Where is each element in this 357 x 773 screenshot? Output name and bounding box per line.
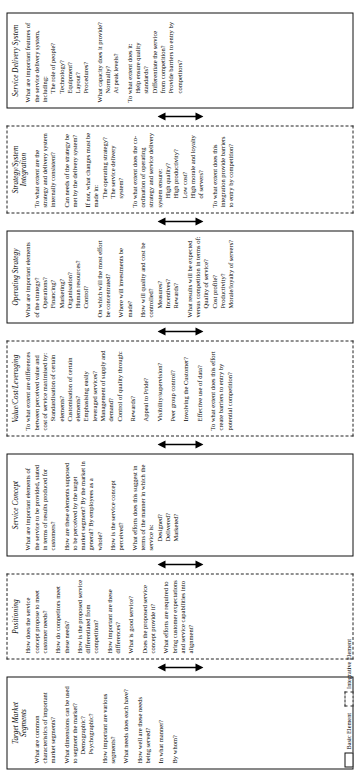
box-body-service-concept: What are important elements of the servi… [23,459,348,550]
question-text: How well are these needs being served? [135,682,152,763]
question-text: If not, what changes must be made in: [83,131,100,207]
box-operating-strategy: Operating Strategy What are important el… [6,230,353,323]
question-subitem: Rewards? [171,236,179,317]
connector-target-positioning [6,659,353,676]
question-subitem: High quality? [163,131,171,207]
question-subitem: Marketing? [57,236,65,317]
question-item: Visibility/supervision? [155,346,163,430]
connector-opstrat-integration [6,213,353,230]
box-service-delivery-system: Service Delivery System What are importa… [6,12,353,108]
question-subitem: High morale and loyalty of servers? [188,131,205,207]
box-title-operating-strategy: Operating Strategy [11,236,19,317]
question-subitem: At peak levels? [111,18,119,102]
question-subitem: Low cost? [180,131,188,207]
question-subitem: Control of quality through: [115,346,123,430]
question-item: Involving the Customer? [181,346,189,430]
question-item: What is good service? [126,579,134,653]
box-target-market-segments: Target Market Segments What are common c… [6,676,353,769]
question-text: What are important features of the servi… [23,18,48,102]
double-arrow-icon [157,326,203,338]
box-value-cost-leveraging: Value/Cost/Leveraging To what extent are… [6,340,353,436]
question-subitem: Control? [81,236,89,317]
question-text: What are common characteristics of impor… [32,682,57,763]
question-text: How important are various segments? [100,682,117,763]
double-arrow-icon [157,111,203,123]
question-text: How will quality and cost be controlled? [138,236,155,317]
strategic-service-vision-diagram: Target Market Segments What are common c… [0,0,357,773]
question-subitem: Quality of service? [201,236,209,317]
question-text: How important are these differences? [105,579,122,653]
question-item: What capacity does it provide?Normally?A… [95,18,120,102]
question-item: How is the service concept perceived? [108,459,125,550]
question-text: What are important elements of the strat… [23,236,40,317]
box-positioning: Positioning How does the service concept… [6,573,353,659]
question-text: How is the proposed service differentiat… [75,579,100,653]
double-arrow-icon [157,439,203,451]
question-text: By whom? [170,682,178,763]
connector-positioning-concept [6,556,353,573]
rotated-diagram-stage: Target Market Segments What are common c… [0,0,357,773]
connector-integration-delivery [6,108,353,125]
question-text: To what extent are the strategy and deli… [32,131,57,207]
legend-swatch-integrative [344,691,353,706]
question-subitem: Differentiate the service from competiti… [150,18,167,102]
double-arrow-icon [157,559,203,571]
question-subitem: Morale/loyalty of servers? [226,236,234,317]
question-text: To what extent does the co-ordination of… [130,131,163,207]
question-text: Visibility/supervision? [155,346,163,430]
question-item: On which will the most effort be concent… [95,236,112,317]
question-item: How does the service concept propose to … [23,579,48,653]
question-item: Where will investments be made? [116,236,133,317]
question-item: What are common characteristics of impor… [32,682,57,763]
question-item: How will quality and cost be controlled?… [138,236,180,317]
question-subitem: The service delivery system? [108,131,125,207]
question-item: How do competitors meet these needs? [53,579,70,653]
question-item: To what extent does it:Help ensure quali… [125,18,183,102]
question-subitem: Financing? [48,236,56,317]
box-service-concept: Service Concept What are important eleme… [6,453,353,556]
question-subitem: Provide barriers to entry by competitors… [166,18,183,102]
question-subitem: Measures? [155,236,163,317]
question-item: What are important elements of the strat… [23,236,90,317]
question-item: To what extent are differences between p… [23,346,123,430]
question-subitem: Procedures? [81,18,89,102]
question-subitem: Demographic? [78,682,86,763]
question-item: How are these elements supposed to be pe… [62,459,104,550]
question-subitem: Equipment? [65,18,73,102]
legend-swatch-basic [344,752,353,767]
box-body-target-market-segments: What are common characteristics of impor… [32,682,348,763]
question-text: Involving the Customer? [181,346,189,430]
question-text: Appeal to Pride? [141,346,149,430]
question-text: What needs does each have? [121,682,129,763]
question-subitem: Productivity? [218,236,226,317]
legend: Basic Element Integrative Element [344,639,353,767]
question-text: How is the service concept perceived? [108,459,125,550]
question-item: To what extent does this integration pro… [210,131,235,207]
question-subitem: Human resources? [73,236,81,317]
question-item: Appeal to Pride? [141,346,149,430]
question-item: By whom? [170,682,178,763]
question-text: What capacity does it provide? [95,18,103,102]
question-item: Rewards? [128,346,136,430]
question-item: If not, what changes must be made in:The… [83,131,125,207]
box-strategy-system-integration: Strategy/System Integration To what exte… [6,125,353,213]
question-subitem: Designed? [155,459,163,550]
question-subitem: Marketed? [171,459,179,550]
box-title-service-delivery-system: Service Delivery System [11,18,19,102]
box-title-target-market-segments: Target Market Segments [11,682,28,763]
box-body-strategy-system-integration: To what extent are the strategy and deli… [32,131,348,207]
box-body-service-delivery-system: What are important features of the servi… [23,18,348,102]
question-item: Effective use of data? [195,346,203,430]
question-item: Can needs of the strategy be met by the … [62,131,79,207]
question-text: How does the service concept propose to … [23,579,48,653]
question-text: To what extent does it: [125,18,133,102]
box-body-operating-strategy: What are important elements of the strat… [23,236,348,317]
question-subitem: Management of supply and demand? [98,346,115,430]
legend-label-integrative: Integrative Element [345,639,351,689]
question-subitem: High productivity? [171,131,179,207]
question-subitem: Help ensure quality standards? [133,18,150,102]
question-subitem: Operations? [40,236,48,317]
question-subitem: Layout? [73,18,81,102]
double-arrow-icon [157,216,203,228]
question-text: What dimensions can be used to segment t… [62,682,79,763]
